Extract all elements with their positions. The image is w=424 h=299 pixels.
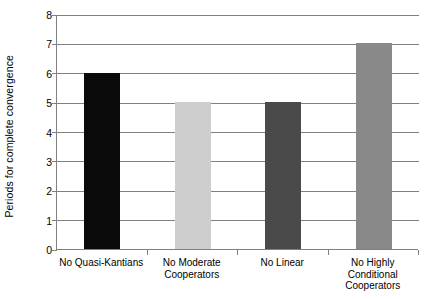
x-axis-tick-mark — [237, 250, 238, 255]
y-axis-tick-label: 6 — [26, 69, 52, 79]
y-axis-tick-label: 4 — [26, 128, 52, 138]
y-axis-tick-mark — [52, 132, 57, 133]
y-axis-tick-mark — [52, 44, 57, 45]
y-axis-tick-label: 0 — [26, 245, 52, 255]
y-axis-tick-label: 7 — [26, 39, 52, 49]
bar[interactable] — [356, 43, 392, 249]
y-axis-tick-mark — [52, 15, 57, 16]
y-axis-title-text: Periods for complete convergence — [4, 55, 15, 218]
y-axis-tick-mark — [52, 220, 57, 221]
x-axis-category-label-line: Cooperators — [141, 269, 244, 281]
y-axis-tick-mark — [52, 191, 57, 192]
y-axis-tick-mark — [52, 73, 57, 74]
x-axis-category-label-line: Conditional — [322, 269, 424, 281]
x-axis-category-label-line: No Highly — [322, 257, 424, 269]
y-axis-title: Periods for complete convergence — [0, 18, 18, 254]
x-axis-category-label-line: Cooperators — [322, 280, 424, 292]
x-axis-category-label-line: No Quasi-Kantians — [50, 257, 153, 269]
chart-title — [56, 0, 418, 3]
plot-area — [56, 15, 418, 250]
x-axis-category-label: No Linear — [231, 257, 334, 269]
x-axis-category-label: No Quasi-Kantians — [50, 257, 153, 269]
y-axis-tick-label: 1 — [26, 216, 52, 226]
x-axis-category-label-line: No Linear — [231, 257, 334, 269]
y-axis-tick-label: 5 — [26, 98, 52, 108]
y-axis-tick-mark — [52, 103, 57, 104]
bar[interactable] — [265, 102, 301, 249]
x-axis-category-label: No ModerateCooperators — [141, 257, 244, 280]
y-axis-tick-mark — [52, 250, 57, 251]
x-axis-tick-mark — [328, 250, 329, 255]
bar-chart: Periods for complete convergence 0123456… — [0, 0, 424, 299]
bar[interactable] — [84, 73, 120, 249]
y-axis-tick-mark — [52, 161, 57, 162]
x-axis-category-label: No HighlyConditionalCooperators — [322, 257, 424, 292]
x-axis-tick-mark — [147, 250, 148, 255]
y-axis-tick-label: 3 — [26, 157, 52, 167]
x-axis-tick-mark — [418, 250, 419, 255]
y-axis-tick-label: 2 — [26, 186, 52, 196]
y-axis-tick-label: 8 — [26, 10, 52, 20]
x-axis-category-label-line: No Moderate — [141, 257, 244, 269]
bar[interactable] — [175, 102, 211, 249]
gridline — [57, 15, 419, 16]
